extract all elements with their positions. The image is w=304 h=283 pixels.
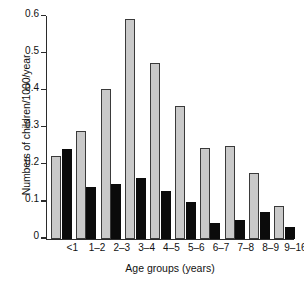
bar-black-series [210, 223, 220, 239]
bar-black-series [260, 212, 270, 239]
bar-black-series [62, 149, 72, 239]
bar-group [51, 16, 72, 239]
x-tick-label: 9–16 [272, 242, 304, 253]
bar-black-series [161, 191, 171, 239]
bar-grey-series [175, 106, 185, 239]
bar-grey-series [150, 63, 160, 238]
bar-grey-series [274, 206, 284, 239]
bar-black-series [235, 220, 245, 239]
x-axis-line [46, 239, 294, 240]
bar-group [101, 16, 122, 239]
bar-group [125, 16, 146, 239]
bar-grey-series [200, 148, 210, 239]
bar-group [200, 16, 221, 239]
bar-black-series [86, 187, 96, 238]
y-tick-label: 0.4 [25, 82, 39, 93]
bar-black-series [111, 184, 121, 239]
x-axis-title: Age groups (years) [46, 262, 294, 274]
plot-area: 00.10.20.30.40.50.6 <11–22–33–44–55–66–7… [46, 16, 294, 240]
bar-black-series [136, 178, 146, 239]
bar-grey-series [249, 173, 259, 239]
y-tick-label: 0.5 [25, 45, 39, 56]
chart-figure: Numbers of children/1000/year 00.10.20.3… [0, 0, 304, 283]
bar-grey-series [125, 19, 135, 239]
y-tick-label: 0.1 [25, 193, 39, 204]
bar-group [274, 16, 295, 239]
bar-black-series [285, 227, 295, 239]
y-tick: 0.1 [41, 200, 46, 201]
bar-grey-series [51, 156, 61, 238]
y-tick: 0.6 [41, 15, 46, 16]
bar-grey-series [76, 131, 86, 239]
y-tick: 0.2 [41, 163, 46, 164]
y-tick: 0.5 [41, 52, 46, 53]
y-tick: 0 [41, 237, 46, 238]
bar-group [150, 16, 171, 239]
y-tick-label: 0.6 [25, 8, 39, 19]
bar-grey-series [101, 89, 111, 239]
y-tick: 0.3 [41, 126, 46, 127]
y-tick: 0.4 [41, 89, 46, 90]
bar-group [249, 16, 270, 239]
bar-grey-series [225, 146, 235, 238]
y-axis-line [46, 16, 47, 240]
bar-black-series [186, 202, 196, 239]
bar-group [175, 16, 196, 239]
y-tick-label: 0.2 [25, 156, 39, 167]
y-tick-label: 0.3 [25, 119, 39, 130]
bar-group [225, 16, 246, 239]
bar-group [76, 16, 97, 239]
y-tick-label: 0 [33, 230, 39, 241]
